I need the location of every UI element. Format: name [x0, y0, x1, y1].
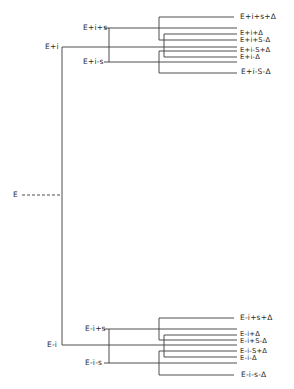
level3-top-4: E+i-Δ [240, 54, 260, 61]
level2-top-minus-s: E+i-s [83, 58, 104, 66]
level3-top-5: E+i-S-Δ [241, 68, 271, 76]
level2-bottom-plus-s: E-i+s [85, 325, 106, 333]
diagram-lines [22, 17, 237, 375]
level2-top-plus-s: E+i+s [83, 24, 107, 32]
level3-top-2: E+i+S-Δ [240, 37, 270, 44]
level3-bottom-4: E-i-Δ [240, 355, 257, 362]
level3-bottom-5: E-i-s-Δ [241, 371, 266, 379]
level1-label-bottom: E-i [47, 341, 57, 349]
level3-bottom-2: E-i+S-Δ [240, 338, 267, 345]
level2-bottom-minus-s: E-i-s [85, 359, 102, 367]
level3-bottom-0: E-i+s+Δ [240, 314, 273, 322]
level1-label-top: E+i [45, 43, 59, 51]
level3-top-0: E+i+s+Δ [240, 13, 276, 21]
root-label: E [13, 191, 18, 199]
